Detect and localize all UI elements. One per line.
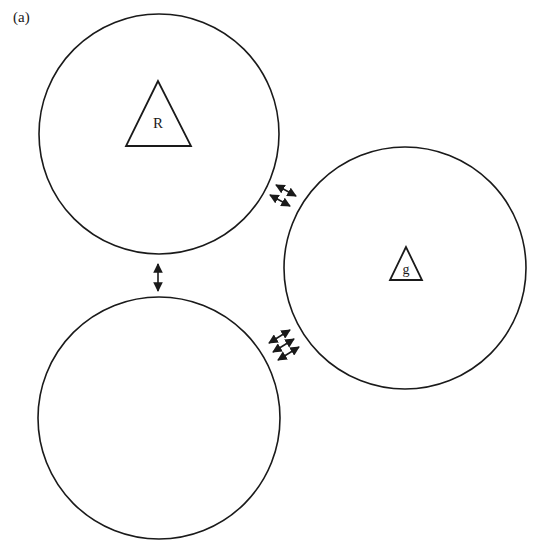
triangle-label: R [153, 115, 163, 131]
double-arrow-icon [278, 347, 299, 360]
bottom-circle-outline [38, 297, 280, 539]
top-circle-outline [39, 14, 279, 254]
double-arrow-icon [276, 185, 296, 196]
triangle-label: g [403, 262, 410, 277]
double-arrow-icon [270, 195, 290, 206]
connection-bottom-circle-to-right-circle [269, 330, 299, 360]
top-circle: R [39, 14, 279, 254]
double-arrow-icon [269, 330, 290, 343]
right-circle: g [284, 147, 526, 389]
triangle-icon [126, 81, 191, 146]
nodes-layer: Rg [38, 14, 526, 539]
arrows-layer [158, 185, 299, 360]
diagram-canvas: Rg [0, 0, 542, 560]
connection-top-circle-to-right-circle [270, 185, 296, 206]
bottom-circle [38, 297, 280, 539]
double-arrow-icon [273, 339, 294, 352]
